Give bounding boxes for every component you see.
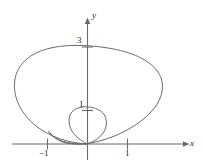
curve-outer-loop — [14, 45, 162, 144]
x-axis-arrowhead — [183, 141, 190, 147]
y-tick-label-3: 3 — [77, 36, 82, 45]
x-axis-label: x — [190, 139, 194, 148]
y-axis-arrowhead — [85, 18, 91, 25]
figure-container: y x 3 1 −1 1 — [0, 0, 203, 167]
x-tick-label-neg1: −1 — [39, 149, 49, 158]
polar-curve-plot — [0, 0, 203, 167]
x-tick-label-1: 1 — [125, 149, 130, 158]
y-tick-label-1: 1 — [79, 100, 84, 109]
y-axis — [82, 18, 93, 161]
y-axis-label: y — [92, 11, 96, 20]
